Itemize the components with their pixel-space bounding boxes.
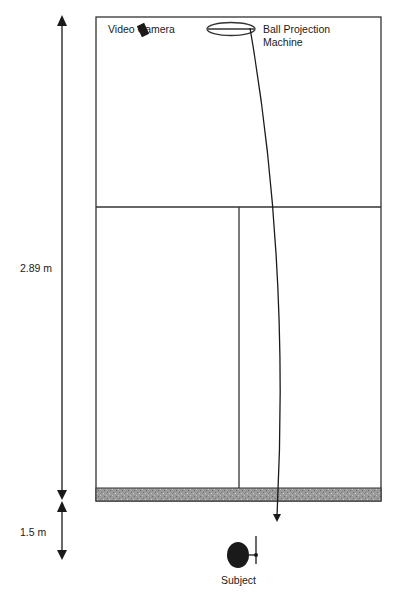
diagram-canvas	[0, 0, 393, 598]
court-length-dimension-arrow	[57, 15, 67, 500]
subject-icon	[227, 536, 258, 568]
video-camera-label: Video Camera	[108, 23, 175, 35]
machine-label-line1: Ball Projection	[263, 23, 330, 35]
floor-strip	[96, 488, 381, 501]
trajectory-arrowhead-icon	[273, 514, 281, 522]
subject-label: Subject	[221, 574, 256, 586]
machine-label-line2: Machine	[263, 36, 303, 48]
ball-trajectory-line	[250, 28, 280, 515]
subject-distance-dimension-arrow	[57, 501, 67, 560]
court-length-label: 2.89 m	[20, 262, 52, 274]
ball-projection-machine-icon	[207, 23, 255, 36]
subject-distance-label: 1.5 m	[20, 526, 46, 538]
